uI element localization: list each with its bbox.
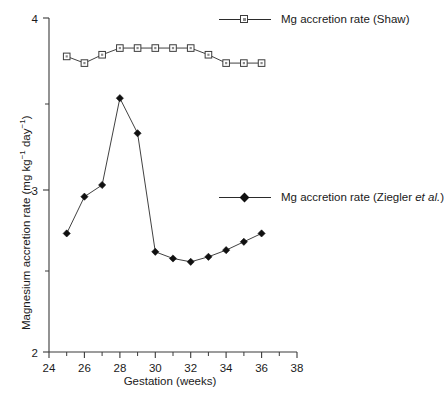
legend-marker-filled-diamond-icon <box>219 190 271 204</box>
data-point-marker <box>63 230 70 237</box>
data-point-marker-core <box>83 62 85 64</box>
y-axis-minor-ticks <box>45 104 49 271</box>
x-tick-label-30: 30 <box>149 362 162 374</box>
chart-figure: 4 3 2 24 26 28 30 32 34 36 38 Magnesium … <box>0 0 444 404</box>
data-point-marker <box>169 255 176 262</box>
data-point-marker <box>99 181 106 188</box>
x-tick-label-36: 36 <box>255 362 268 374</box>
data-point-marker-core <box>260 62 262 64</box>
y-axis-title-wrap: Magnesium accretion rate (mg kg−1 day−1) <box>0 0 26 404</box>
series-ziegler <box>63 95 265 266</box>
data-point-marker-core <box>66 55 68 57</box>
data-point-marker-core <box>119 47 121 49</box>
x-tick-label-34: 34 <box>220 362 233 374</box>
x-tick-label-32: 32 <box>184 362 197 374</box>
data-point-marker-core <box>207 54 209 56</box>
y-tick-label-3: 3 <box>32 185 38 197</box>
y-tick-label-4: 4 <box>32 13 39 25</box>
data-point-marker-core <box>154 47 156 49</box>
legend-label-ziegler-suffix: ) <box>440 191 444 203</box>
y-axis-title: Magnesium accretion rate (mg kg−1 day−1) <box>18 116 32 331</box>
data-point-marker-core <box>190 47 192 49</box>
data-point-marker <box>134 130 141 137</box>
legend-label-ziegler-prefix: Mg accretion rate (Ziegler <box>281 191 415 203</box>
y-axis-title-middle: day <box>20 128 32 150</box>
data-point-marker <box>152 248 159 255</box>
x-tick-label-28: 28 <box>114 362 127 374</box>
y-axis-title-suffix: ) <box>20 116 32 120</box>
data-point-marker <box>205 253 212 260</box>
y-axis-title-prefix: Magnesium accretion rate (mg kg <box>20 159 32 330</box>
x-tick-label-26: 26 <box>78 362 91 374</box>
y-axis-title-sup2: −1 <box>18 119 27 128</box>
data-point-marker <box>187 258 194 265</box>
data-point-marker <box>258 230 265 237</box>
legend-label-ziegler-italic: et al. <box>415 191 440 203</box>
y-axis-title-sup1: −1 <box>18 150 27 159</box>
y-tick-label-2: 2 <box>32 347 38 359</box>
data-point-marker-core <box>243 62 245 64</box>
data-point-marker <box>81 193 88 200</box>
legend-entry-shaw: Mg accretion rate (Shaw) <box>219 12 409 26</box>
x-tick-label-38: 38 <box>291 362 304 374</box>
data-point-marker <box>240 238 247 245</box>
series-line <box>67 98 262 262</box>
data-point-marker <box>116 95 123 102</box>
x-axis-title: Gestation (weeks) <box>0 375 340 387</box>
data-point-marker-core <box>101 54 103 56</box>
series-line <box>67 48 262 63</box>
series-shaw <box>63 45 264 67</box>
legend-entry-ziegler: Mg accretion rate (Ziegler et al.) <box>219 190 444 204</box>
x-axis-minor-ticks <box>67 352 280 356</box>
legend-marker-open-square-icon <box>219 12 271 26</box>
data-point-marker <box>223 247 230 254</box>
legend-label-ziegler: Mg accretion rate (Ziegler et al.) <box>281 191 444 203</box>
legend-label-shaw: Mg accretion rate (Shaw) <box>281 13 409 25</box>
data-point-marker-core <box>172 47 174 49</box>
data-point-marker-core <box>225 62 227 64</box>
x-tick-label-24: 24 <box>43 362 56 374</box>
y-axis-major-ticks <box>43 18 49 352</box>
data-point-marker-core <box>136 47 138 49</box>
